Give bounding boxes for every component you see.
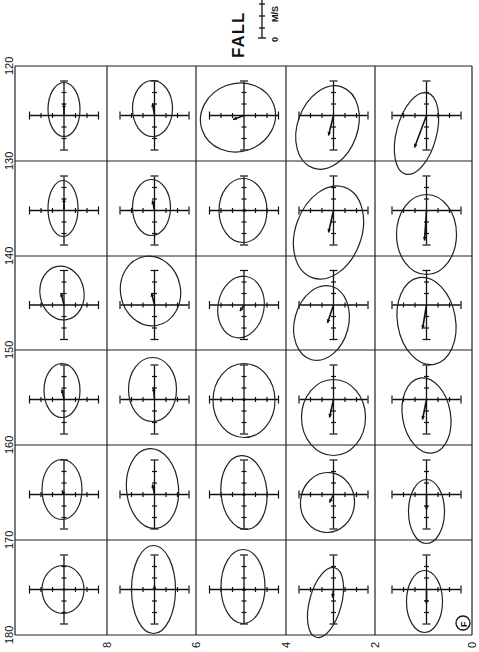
current-cell: [120, 446, 189, 530]
mean-vector-arrow: [415, 116, 427, 148]
current-cell: [299, 555, 368, 641]
current-cell: [386, 81, 461, 179]
current-cell: [30, 176, 99, 245]
y-tick-label: 170: [3, 531, 15, 549]
panel-label-text: F: [459, 621, 469, 627]
x-tick-label: 2: [369, 642, 381, 648]
current-cell: [120, 81, 189, 151]
x-tick-label: 0: [466, 642, 478, 648]
current-cell: [30, 364, 99, 435]
x-tick-label: 4: [280, 642, 292, 648]
current-cell: [390, 271, 462, 370]
current-cell: [285, 77, 371, 178]
current-cell: [286, 271, 368, 367]
current-cell: [281, 176, 376, 289]
current-cell: [115, 251, 189, 339]
current-cell: [30, 555, 99, 624]
arrowhead-icon: [425, 506, 429, 510]
variance-ellipse: [301, 564, 351, 642]
variance-ellipse: [133, 81, 173, 137]
current-cell: [120, 176, 189, 245]
current-cell: [120, 358, 189, 435]
arrowhead-icon: [153, 586, 157, 590]
current-cell: [30, 460, 99, 530]
current-cell: [30, 81, 99, 150]
variance-ellipse: [298, 470, 357, 534]
current-cell: [392, 365, 461, 457]
y-tick-label: 180: [3, 626, 15, 644]
y-tick-label: 160: [3, 436, 15, 454]
y-tick-label: 120: [3, 57, 15, 75]
current-cell: [210, 550, 279, 625]
current-cell: [30, 263, 99, 340]
current-cell: [299, 365, 368, 456]
current-cell: [210, 176, 279, 245]
current-cell: [392, 555, 461, 633]
scale-unit-label: M/S: [270, 6, 280, 22]
variance-ellipse: [133, 180, 171, 236]
current-cell: [392, 176, 461, 275]
chart-title: FALL: [229, 12, 248, 59]
variance-ellipse: [42, 460, 82, 520]
scale-bar: 0 M/S: [258, 0, 280, 42]
current-cell: [120, 546, 189, 634]
panel-label: F: [456, 616, 470, 630]
x-tick-label: 6: [190, 642, 202, 648]
variance-ellipse: [115, 251, 186, 330]
current-cell: [210, 454, 279, 532]
y-axis-labels: 120130140150160170180: [3, 57, 15, 644]
x-axis-labels: 86420: [101, 642, 478, 648]
variance-ellipse: [285, 77, 371, 178]
variance-ellipse: [129, 358, 177, 422]
current-ellipse-chart: 120130140150160170180 86420 FALL 0 M/S F: [0, 0, 479, 652]
x-tick-label: 8: [101, 642, 113, 648]
current-cell: [210, 364, 279, 438]
arrowhead-icon: [425, 600, 429, 604]
current-cell: [392, 460, 461, 544]
chart-cells: [30, 73, 463, 642]
current-cell: [191, 73, 286, 163]
y-tick-label: 140: [3, 247, 15, 265]
current-cell: [210, 271, 279, 342]
y-tick-label: 150: [3, 341, 15, 359]
current-cell: [298, 460, 368, 535]
variance-ellipse: [286, 279, 358, 366]
variance-ellipse: [386, 88, 446, 179]
scale-zero-label: 0: [270, 37, 280, 42]
y-tick-label: 130: [3, 152, 15, 170]
